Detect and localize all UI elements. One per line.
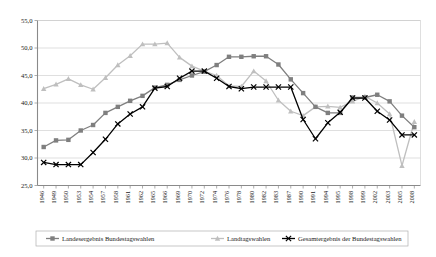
x-axis-tick-label: 1969 [174,191,181,203]
x-axis-tick-labels: 1946194919501953195419571958196119621965… [38,186,416,204]
x-axis-tick-label: 1998 [347,191,354,203]
line-chart: 25,030,035,040,045,050,055,0 19461949195… [0,0,436,257]
data-point-marker [412,125,416,129]
x-axis-tick-label: 1987 [285,191,292,203]
x-axis-tick-label: 1978 [235,191,242,203]
data-point-marker [66,76,71,81]
x-axis-tick-label: 1983 [272,191,279,203]
data-point-marker [128,99,132,103]
data-point-marker [375,93,379,97]
gridlines [38,21,421,186]
x-axis-tick-label: 1995 [334,191,341,203]
x-axis-tick-label: 1958 [112,191,119,203]
data-point-marker [103,111,107,115]
y-axis-tick-label: 55,0 [21,17,33,24]
data-point-marker [214,63,218,67]
data-point-marker [313,105,317,109]
data-point-marker [264,54,268,58]
data-point-marker [140,94,144,98]
series-line [44,43,415,166]
x-axis-tick-label: 1946 [38,191,45,203]
y-axis-tick-label: 40,0 [21,99,33,106]
legend-item-1[interactable]: Landtagswahlen [211,235,271,242]
x-axis-tick-label: 1991 [309,191,316,203]
x-axis-tick-label: 1976 [223,191,230,203]
data-point-marker [91,123,95,127]
x-axis-tick-label: 1954 [87,191,94,203]
y-axis-tick-label: 30,0 [21,154,33,161]
data-point-marker [412,119,417,124]
x-axis-tick-label: 1949 [50,191,57,203]
x-axis-tick-label: 2008 [408,191,415,203]
x-axis-tick-label: 2002 [371,191,378,203]
data-point-marker [50,236,54,240]
series-0 [41,54,416,149]
x-axis-tick-label: 2003 [384,191,391,203]
data-point-marker [239,55,243,59]
data-point-marker [326,111,330,115]
data-point-marker [301,91,305,95]
data-point-marker [66,138,70,142]
legend-item-2[interactable]: Gesamtergebnis der Bundestagswahlen [282,235,402,242]
data-point-marker [79,128,83,132]
data-point-marker [289,77,293,81]
legend-item-0[interactable]: Landesergebnis Bundestagswahlen [46,235,155,242]
data-point-marker [116,105,120,109]
y-axis-tick-label: 25,0 [21,182,33,189]
x-axis-tick-label: 2005 [396,191,403,203]
legend-label: Landesergebnis Bundestagswahlen [62,235,155,242]
x-axis-tick-label: 1961 [124,191,131,203]
x-axis-tick-label: 1957 [99,191,106,203]
x-axis-tick-label: 1953 [75,191,82,203]
x-axis-tick-label: 1994 [322,191,329,203]
chart-legend: Landesergebnis BundestagswahlenLandtagsw… [36,231,408,246]
x-axis-tick-label: 1966 [161,191,168,203]
y-axis-tick-label: 45,0 [21,72,33,79]
data-point-marker [400,113,404,117]
x-axis-tick-label: 1965 [149,191,156,203]
legend-label: Gesamtergebnis der Bundestagswahlen [298,235,402,242]
data-point-marker [190,73,194,77]
x-axis-tick-label: 1972 [198,191,205,203]
data-point-marker [227,55,231,59]
data-point-marker [251,68,256,73]
x-axis-tick-label: 1980 [248,191,255,203]
x-axis-tick-label: 1982 [260,191,267,203]
x-axis-tick-label: 1990 [297,191,304,203]
data-point-marker [387,99,391,103]
x-axis-tick-label: 1962 [137,191,144,203]
data-point-marker [399,163,404,168]
x-axis-tick-label: 1974 [211,191,218,203]
data-point-marker [252,54,256,58]
legend-label: Landtagswahlen [227,235,271,242]
chart-container: 25,030,035,040,045,050,055,0 19461949195… [0,0,436,257]
y-axis-tick-label: 50,0 [21,44,33,51]
series-line [44,56,415,147]
data-point-marker [54,138,58,142]
x-axis-tick-label: 1999 [359,191,366,203]
y-axis-tick-labels: 25,030,035,040,045,050,055,0 [21,17,38,189]
x-axis-tick-label: 1970 [186,191,193,203]
data-series [41,40,417,168]
x-axis-tick-label: 1950 [62,191,69,203]
data-point-marker [276,62,280,66]
data-point-marker [41,145,45,149]
y-axis-tick-label: 35,0 [21,127,33,134]
